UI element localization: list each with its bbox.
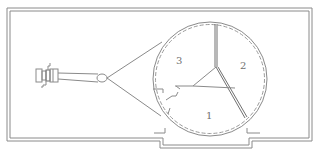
sector-3-label: 3 (176, 56, 182, 66)
sector-dividers (175, 24, 247, 118)
emitter-tube (58, 73, 107, 82)
chamber-brackets (154, 128, 260, 133)
sector-2-label: 2 (240, 61, 246, 71)
sector-1-label: 1 (206, 111, 212, 121)
diagram-canvas: 3 2 1 (0, 0, 319, 158)
device (36, 63, 58, 87)
diagram-svg (0, 0, 319, 158)
projection-cone (107, 42, 162, 116)
